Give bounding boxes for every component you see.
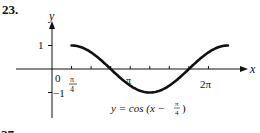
eq-frac-num: π [175, 100, 179, 108]
tick-label-neg-one: −1 [53, 87, 65, 99]
equation-label: y = cos (x − [110, 102, 165, 115]
tick-label-pi: π [126, 75, 131, 86]
tick-label-zero: 0 [55, 72, 61, 84]
tick-label-one: 1 [38, 39, 44, 51]
x-axis-label: x [249, 62, 256, 76]
y-axis-label: y [48, 9, 55, 23]
tick-label-pi-over-4-num: π [70, 75, 74, 84]
tick-label-pi-over-4-den: 4 [70, 85, 74, 94]
cosine-graph: y x 0 π 4 π 2π 1 −1 y = cos (x − π 4 ) 2… [0, 0, 260, 133]
next-problem-number: 27 [1, 127, 15, 133]
eq-prefix: y = cos (x − [110, 102, 165, 115]
tick-label-two-pi: 2π [200, 78, 212, 90]
x-axis-arrow-icon [240, 66, 248, 72]
eq-frac-den: 4 [175, 109, 179, 117]
eq-suffix: ) [182, 102, 186, 115]
